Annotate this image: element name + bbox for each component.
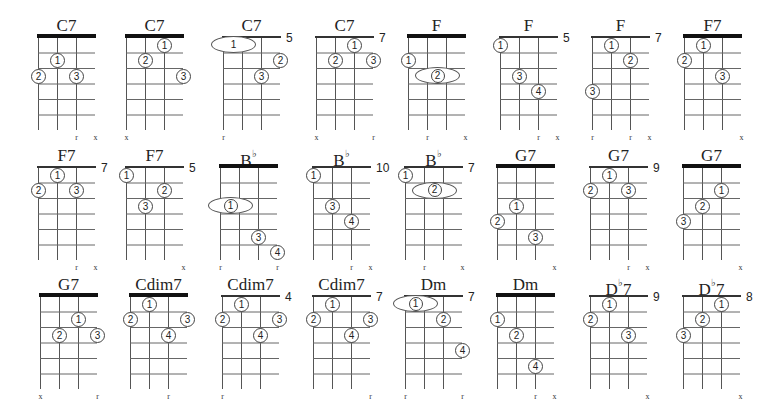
flat-sign: ♭ <box>345 148 350 159</box>
finger-number: 1 <box>409 297 423 311</box>
chord-diagram: C77123xr <box>316 37 373 130</box>
root-string-mark: r <box>458 392 468 401</box>
chord-name: C7 <box>18 17 115 35</box>
muted-string-mark: x <box>643 392 653 401</box>
chord-diagram: F7123x <box>684 37 741 130</box>
finger-marker: 4 <box>528 359 543 374</box>
fret-position-label: 9 <box>653 290 660 304</box>
top-fret-line <box>37 166 96 168</box>
fret-position-label: 5 <box>286 31 293 45</box>
nut-bar <box>683 34 742 38</box>
fretboard-grid <box>500 37 557 130</box>
chord-root: F7 <box>146 146 164 165</box>
finger-marker: 3 <box>272 312 287 327</box>
fretboard-grid <box>313 167 370 260</box>
chord-root: F <box>524 16 533 35</box>
chord-root: F <box>432 16 441 35</box>
barre-marker: 2 <box>412 182 457 199</box>
fret-position-label: 5 <box>563 31 570 45</box>
chord-root: G7 <box>608 146 629 165</box>
fretboard-grid <box>38 167 95 260</box>
fret-position-label: 9 <box>653 161 660 175</box>
finger-marker: 3 <box>90 328 105 343</box>
muted-string-mark: x <box>179 263 189 272</box>
chord-name: G7 <box>477 147 574 165</box>
finger-marker: 3 <box>176 69 191 84</box>
chord-diagram: F21rx <box>408 37 465 130</box>
finger-marker: 1 <box>604 38 619 53</box>
chord-root: F <box>616 16 625 35</box>
top-fret-line <box>499 36 558 38</box>
finger-marker: 2 <box>31 69 46 84</box>
chord-root: Cdim7 <box>227 275 273 294</box>
finger-marker: 4 <box>270 245 285 260</box>
chord-diagram: F5134rx <box>500 37 557 130</box>
muted-string-mark: x <box>122 133 132 142</box>
root-string-mark: r <box>219 133 229 142</box>
fret-position-label: 5 <box>189 161 196 175</box>
finger-marker: 1 <box>696 38 711 53</box>
top-fret-line <box>312 166 371 168</box>
chord-diagram: C75123r <box>223 37 280 130</box>
fret-position-label: 7 <box>468 161 475 175</box>
root-string-mark: r <box>366 392 376 401</box>
nut-bar <box>37 34 96 38</box>
muted-string-mark: x <box>36 392 46 401</box>
chord-diagram: Cdim71234r <box>130 296 187 389</box>
finger-marker: 3 <box>676 328 691 343</box>
muted-string-mark: x <box>461 133 471 142</box>
root-string-mark: r <box>624 263 634 272</box>
chord-diagram: Cdim771234r <box>313 296 370 389</box>
flat-sign: ♭ <box>252 148 257 159</box>
top-fret-line <box>682 295 741 297</box>
root-string-mark: r <box>273 263 283 272</box>
muted-string-mark: x <box>91 133 101 142</box>
root-string-mark: r <box>534 133 544 142</box>
finger-marker: 3 <box>138 199 153 214</box>
fretboard-grid <box>405 167 462 260</box>
finger-marker: 4 <box>455 343 470 358</box>
finger-marker: 1 <box>493 38 508 53</box>
fretboard-grid <box>590 296 647 389</box>
finger-marker: 3 <box>254 69 269 84</box>
fretboard-grid <box>684 37 741 130</box>
finger-number: 1 <box>227 38 241 52</box>
finger-marker: 1 <box>602 297 617 312</box>
finger-marker: 3 <box>69 69 84 84</box>
finger-number: 2 <box>431 69 445 83</box>
fret-position-label: 8 <box>746 290 753 304</box>
fretboard-grid <box>592 37 649 130</box>
finger-marker: 1 <box>398 168 413 183</box>
chord-diagram: G7123x <box>683 167 740 260</box>
muted-string-mark: x <box>458 263 468 272</box>
root-string-mark: r <box>72 263 82 272</box>
chord-name: C7 <box>106 17 203 35</box>
top-fret-line <box>221 295 280 297</box>
root-string-mark: r <box>369 133 379 142</box>
fretboard-grid <box>497 296 554 389</box>
root-string-mark: r <box>218 392 228 401</box>
muted-string-mark: x <box>643 263 653 272</box>
finger-marker: 1 <box>714 297 729 312</box>
root-string-mark: r <box>93 392 103 401</box>
chord-root: G7 <box>58 275 79 294</box>
fretboard-grid <box>497 167 554 260</box>
muted-string-mark: x <box>312 133 322 142</box>
fretboard-grid <box>222 296 279 389</box>
root-string-mark: r <box>347 263 357 272</box>
finger-marker: 2 <box>695 199 710 214</box>
finger-marker: 1 <box>509 199 524 214</box>
chord-diagram: C7123rx <box>38 37 95 130</box>
chord-diagram: G7123x <box>497 167 554 260</box>
finger-number: 1 <box>224 199 238 213</box>
chord-root: Cdim7 <box>135 275 181 294</box>
finger-marker: 1 <box>157 38 172 53</box>
fretboard-grid <box>590 167 647 260</box>
finger-marker: 1 <box>119 168 134 183</box>
finger-marker: 2 <box>509 328 524 343</box>
finger-marker: 1 <box>234 297 249 312</box>
chord-diagram: D♭79123x <box>590 296 647 389</box>
nut-bar <box>496 293 555 297</box>
chord-diagram: Cdim741234r <box>222 296 279 389</box>
chord-diagram: F77123rx <box>38 167 95 260</box>
